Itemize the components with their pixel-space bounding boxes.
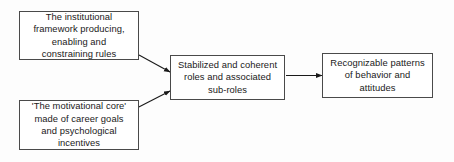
node-motivational-core[interactable]: 'The motivational core' made of career g…	[19, 100, 139, 150]
diagram-canvas: The institutional framework producing, e…	[0, 0, 454, 162]
node-recognizable-patterns-label: Recognizable patterns of behavior and at…	[327, 57, 428, 94]
node-stabilized-roles[interactable]: Stabilized and coherent roles and associ…	[170, 55, 285, 100]
node-institutional-framework[interactable]: The institutional framework producing, e…	[19, 11, 139, 60]
node-institutional-framework-label: The institutional framework producing, e…	[24, 11, 134, 60]
node-recognizable-patterns[interactable]: Recognizable patterns of behavior and at…	[322, 53, 433, 98]
node-motivational-core-label: 'The motivational core' made of career g…	[24, 100, 134, 149]
connector-framework-to-roles	[139, 55, 170, 72]
node-stabilized-roles-label: Stabilized and coherent roles and associ…	[175, 59, 280, 96]
